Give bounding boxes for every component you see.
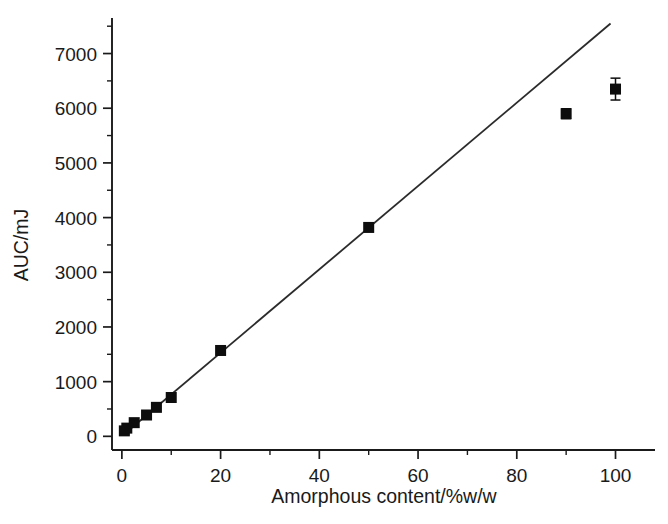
data-point-marker	[215, 345, 226, 356]
y-tick-label: 1000	[55, 372, 97, 393]
data-point-marker	[151, 402, 162, 413]
x-tick-label: 0	[117, 465, 128, 486]
x-tick-label: 80	[506, 465, 527, 486]
data-point-marker	[610, 84, 621, 95]
y-tick-label: 2000	[55, 317, 97, 338]
data-point-marker	[363, 222, 374, 233]
y-tick-label: 6000	[55, 98, 97, 119]
data-point-marker	[129, 417, 140, 428]
x-tick-label: 60	[407, 465, 428, 486]
y-tick-label: 4000	[55, 208, 97, 229]
x-tick-label: 100	[600, 465, 632, 486]
data-point-marker	[141, 410, 152, 421]
x-axis-title: Amorphous content/%w/w	[271, 485, 497, 507]
plot-background	[0, 0, 668, 524]
data-point-marker	[166, 392, 177, 403]
y-tick-label: 3000	[55, 262, 97, 283]
chart-figure: 01000200030004000500060007000 0204060801…	[0, 0, 668, 524]
scatter-plot: 01000200030004000500060007000 0204060801…	[0, 0, 668, 524]
x-tick-label: 40	[309, 465, 330, 486]
y-tick-label: 0	[86, 426, 97, 447]
x-tick-label: 20	[210, 465, 231, 486]
y-axis-title: AUC/mJ	[10, 209, 32, 282]
y-tick-label: 5000	[55, 153, 97, 174]
y-tick-label: 7000	[55, 44, 97, 65]
data-point-marker	[561, 108, 572, 119]
